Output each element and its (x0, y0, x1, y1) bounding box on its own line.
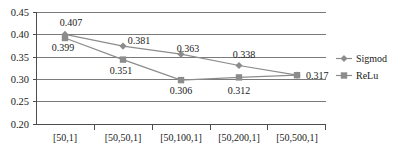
legend-label-sigmod: Sigmod (356, 53, 387, 64)
data-label-relu-0: 0.399 (52, 42, 75, 53)
line-chart: 0.45 0.40 0.35 0.30 0.25 0.20 [50,1] [50… (0, 0, 404, 159)
data-label-relu-1: 0.351 (110, 65, 133, 76)
legend-marker-sigmod-icon (341, 55, 348, 62)
series-markers-sigmod (61, 31, 300, 79)
data-point-relu-3 (236, 74, 242, 80)
y-tick-label-1: 0.40 (11, 29, 29, 40)
y-tick-label-4: 0.25 (11, 96, 29, 107)
x-tick-label-2: [50,100,1] (160, 132, 202, 143)
x-tick-marks (95, 125, 326, 130)
legend-label-relu: ReLu (356, 70, 378, 81)
legend: Sigmod ReLu (336, 53, 387, 81)
data-label-sigmod-4: 0.317 (306, 70, 329, 81)
y-tick-label-2: 0.35 (11, 52, 29, 63)
y-tick-label-0: 0.45 (11, 7, 29, 18)
data-point-relu-2 (178, 77, 184, 83)
x-tick-label-3: [50,200,1] (218, 132, 260, 143)
data-point-sigmod-3 (235, 62, 242, 69)
data-point-relu-1 (120, 56, 126, 62)
data-label-sigmod-0: 0.407 (60, 17, 83, 28)
data-label-relu-3: 0.312 (228, 85, 251, 96)
data-label-sigmod-2: 0.363 (177, 43, 200, 54)
y-tick-marks (33, 13, 37, 125)
y-tick-label-3: 0.30 (11, 74, 29, 85)
data-label-relu-2: 0.306 (170, 85, 193, 96)
data-point-sigmod-1 (119, 43, 126, 50)
y-tick-label-5: 0.20 (11, 119, 29, 130)
x-tick-label-1: [50,50,1] (105, 132, 142, 143)
legend-marker-relu-icon (341, 72, 347, 78)
x-tick-label-4: [50,500,1] (276, 132, 318, 143)
data-label-sigmod-1: 0.381 (128, 35, 151, 46)
x-tick-label-0: [50,1] (53, 132, 77, 143)
data-label-sigmod-3: 0.338 (233, 49, 256, 60)
chart-canvas: 0.45 0.40 0.35 0.30 0.25 0.20 [50,1] [50… (0, 0, 404, 159)
